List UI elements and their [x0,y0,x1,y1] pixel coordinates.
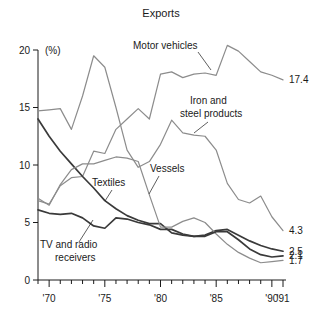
y-axis: 05101520 [19,45,38,286]
series-annotation-label: receivers [55,252,96,263]
annotation-leader-line [194,122,208,133]
series-annotation-label: Iron and [190,95,227,106]
x-axis-tick-label: '70 [43,293,56,304]
exports-line-chart: Exports (%) 05101520 '70'75'80'85'90'91 … [0,0,323,330]
series-line-textiles [38,119,283,251]
y-axis-tick-label: 5 [24,217,30,228]
series-annotation-label: steel products [180,108,242,119]
series-end-labels: 17.44.32.51.72.1 [289,74,309,266]
y-axis-tick-label: 10 [19,160,31,171]
series-annotation-label: Vessels [150,163,184,174]
x-axis: '70'75'80'85'90'91 [38,280,290,304]
x-axis-tick-label: '85 [210,293,223,304]
chart-canvas: Exports (%) 05101520 '70'75'80'85'90'91 … [0,0,323,330]
annotation-leader-line [105,190,112,201]
series-line-iron-and-steel-products [38,56,283,231]
y-axis-tick-label: 15 [19,102,31,113]
end-value-label: 2.1 [289,250,303,261]
series-annotation-label: Motor vehicles [133,40,197,51]
annotation-leader-line [149,176,159,194]
y-axis-unit-label: (%) [45,45,61,56]
series-lines [38,45,283,262]
x-axis-tick-label: '80 [154,293,167,304]
series-line-motor-vehicles [38,45,283,204]
y-axis-tick-label: 0 [24,275,30,286]
series-annotation-label: Textiles [92,177,125,188]
annotation-leader-line [198,52,211,70]
chart-title: Exports [142,7,180,19]
y-axis-tick-label: 20 [19,45,31,56]
end-value-label: 4.3 [289,225,303,236]
end-value-label: 17.4 [289,74,309,85]
x-axis-tick-label: '91 [276,293,289,304]
x-axis-tick-label: '75 [98,293,111,304]
series-annotation-label: TV and radio [40,239,98,250]
